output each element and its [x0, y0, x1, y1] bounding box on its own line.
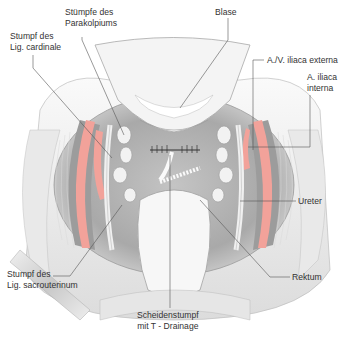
label-iliaca-interna: A. iliaca interna [307, 72, 337, 93]
rectum [138, 190, 210, 298]
label-scheidenstumpf: Scheidenstumpf mit T - Drainage [137, 310, 199, 331]
label-stumpf-sacrouterinum: Stumpf des Lig. sacrouterinum [7, 269, 78, 290]
label-stumpf-cardinale: Stumpf des Lig. cardinale [10, 31, 61, 52]
label-blase: Blase [215, 7, 237, 18]
label-rektum: Rektum [292, 272, 322, 283]
label-stuempfe-parakolpium: Stümpfe des Parakolpiums [65, 7, 117, 28]
label-iliaca-externa: A./V. iliaca externa [267, 55, 338, 66]
label-ureter: Ureter [298, 196, 322, 207]
